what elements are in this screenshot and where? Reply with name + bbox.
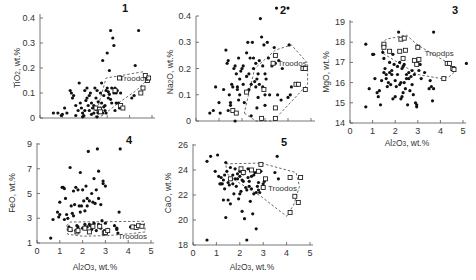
sample-point (87, 104, 90, 107)
sample-point (219, 112, 222, 115)
sample-point (81, 188, 84, 191)
sample-point (95, 188, 98, 191)
sample-point (106, 51, 109, 54)
sample-point (70, 204, 73, 207)
sample-point (100, 81, 103, 84)
troodos-point (382, 45, 386, 49)
sample-point (258, 83, 261, 86)
sample-point (119, 91, 122, 94)
sample-point (273, 46, 276, 49)
troodos-point (68, 227, 72, 231)
sample-point (399, 97, 402, 100)
sample-point (237, 56, 240, 59)
sample-point (227, 181, 230, 184)
troodos-point (98, 224, 102, 228)
troodos-point (402, 36, 406, 40)
sample-point (243, 101, 246, 104)
sample-point (258, 59, 261, 62)
panel-2: 00.10.20.30.4Troodos2Na2O, wt.% (165, 4, 315, 126)
sample-point (212, 109, 215, 112)
sample-point (364, 105, 367, 108)
sample-point (386, 85, 389, 88)
y-tick-label: 0.2 (178, 64, 191, 74)
troodos-point (273, 106, 277, 110)
sample-point (238, 192, 241, 195)
sample-point (65, 111, 68, 114)
sample-point (222, 178, 225, 181)
sample-point (245, 238, 248, 241)
sample-point (229, 202, 232, 205)
y-tick-label: 3 (27, 213, 32, 223)
sample-point (224, 49, 227, 52)
sample-point (395, 85, 398, 88)
sample-point (276, 93, 279, 96)
x-tick-label: 3 (261, 248, 266, 258)
sample-point (72, 94, 75, 97)
sample-point (61, 113, 64, 116)
sample-point (420, 77, 423, 80)
troodos-point (250, 168, 254, 172)
sample-point (69, 166, 72, 169)
troodos-point (260, 116, 264, 120)
panel-number: 4 (126, 134, 133, 146)
troodos-point (273, 116, 277, 120)
troodos-point (288, 176, 292, 180)
y-axis-title: Na2O, wt.% (165, 49, 175, 94)
sample-point (238, 77, 241, 80)
panel-number: 2 (280, 4, 286, 16)
sample-point (234, 177, 237, 180)
sample-point (273, 171, 276, 174)
sample-point (220, 176, 223, 179)
troodos-point (416, 45, 420, 49)
sample-point (231, 173, 234, 176)
sample-point (97, 197, 100, 200)
sample-point (65, 213, 68, 216)
troodos-point (288, 211, 292, 215)
x-tick-label: 2 (393, 126, 398, 136)
troodos-point (228, 177, 232, 181)
sample-point (102, 94, 105, 97)
sample-point (231, 182, 234, 185)
x-tick-label: 4 (126, 246, 131, 256)
sample-point (238, 93, 241, 96)
x-axis-title: Al2O3, wt.% (73, 262, 118, 272)
sample-point (242, 83, 245, 86)
sample-point (109, 98, 112, 101)
sample-point (85, 86, 88, 89)
sample-point (263, 104, 266, 107)
sample-point (288, 43, 291, 46)
sample-point (86, 204, 89, 207)
sample-point (250, 83, 253, 86)
sample-point (248, 185, 251, 188)
sample-point (90, 192, 93, 195)
x-tick-label: 5 (307, 248, 312, 258)
troodos-point (106, 229, 110, 233)
sample-point (250, 187, 253, 190)
troodos-point (296, 201, 300, 205)
troodos-point (76, 229, 80, 233)
sample-point (58, 201, 61, 204)
sample-point (52, 111, 55, 114)
sample-point (220, 182, 223, 185)
y-tick-label: 19 (335, 17, 345, 27)
sample-point (372, 53, 375, 56)
y-tick-label: 15 (335, 98, 345, 108)
sample-point (393, 63, 396, 66)
sample-point (431, 99, 434, 102)
sample-point (217, 101, 220, 104)
x-tick-label: 1 (370, 126, 375, 136)
sample-point (257, 96, 260, 99)
sample-point (394, 79, 397, 82)
sample-point (79, 101, 82, 104)
troodos-point (241, 171, 245, 175)
sample-point (263, 93, 266, 96)
y-axis-title: TiO2, wt.% (12, 47, 22, 88)
sample-point (111, 36, 114, 39)
sample-point (242, 64, 245, 67)
sample-point (252, 173, 255, 176)
x-tick-label: 2 (237, 248, 242, 258)
x-axis-title: Al2O3, wt.% (230, 262, 275, 272)
sample-point (377, 95, 380, 98)
sample-point (289, 93, 292, 96)
panel-1: 00.10.20.30.4Troodos1TiO2, wt.% (12, 2, 155, 123)
